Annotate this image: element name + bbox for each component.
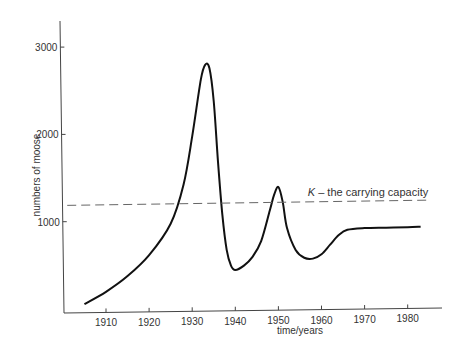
x-tick-label: 1910: [95, 317, 118, 328]
x-tick-label: 1940: [224, 316, 247, 327]
axes: [60, 21, 442, 313]
y-tick-label: 3000: [35, 42, 58, 53]
population-line: [84, 63, 420, 304]
series: [67, 63, 429, 304]
y-tick-label: 1000: [37, 217, 60, 228]
y-axis-line: [60, 21, 64, 313]
x-tick-label: 1930: [181, 316, 204, 327]
x-axis-title: time/years: [277, 325, 323, 336]
x-tick-label: 1970: [353, 314, 376, 325]
x-axis-line: [64, 308, 442, 313]
k-description: – the carrying capacity: [315, 186, 429, 198]
x-tick-label: 1960: [310, 315, 333, 326]
x-tick-label: 1980: [397, 313, 420, 324]
carrying-capacity-label: K – the carrying capacity: [308, 186, 429, 198]
y-axis-title: numbers of moose: [31, 133, 42, 216]
carrying-capacity-line: [67, 200, 429, 205]
x-tick-label: 1920: [138, 317, 161, 328]
moose-population-chart: 1910192019301940195019601970198010002000…: [0, 0, 473, 355]
